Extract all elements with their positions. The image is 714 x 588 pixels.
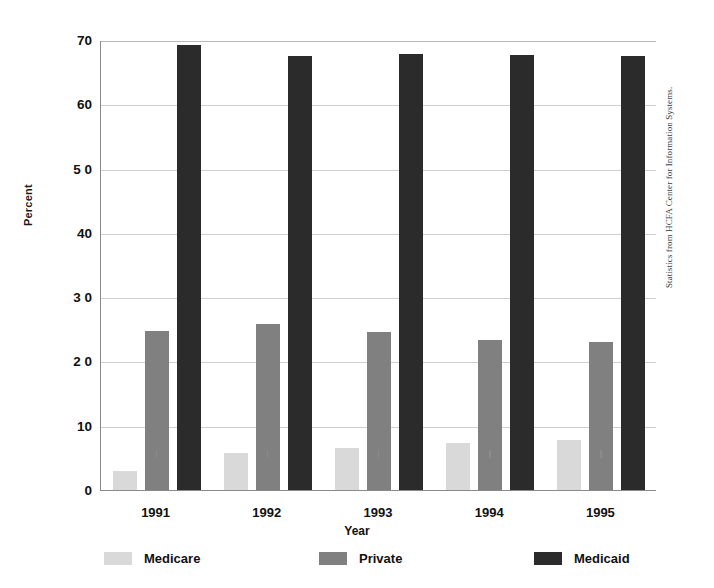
y-axis-tick-label: 3 0 xyxy=(48,291,92,305)
bar-medicare-1994 xyxy=(446,443,470,490)
bar-private-1991 xyxy=(145,331,169,490)
bar-group xyxy=(212,41,323,490)
legend-label: Medicaid xyxy=(574,551,630,566)
x-axis-tick-label-1995: 1995 xyxy=(560,505,640,520)
bar-group xyxy=(546,41,657,490)
x-axis-tick-mark xyxy=(267,450,268,458)
bar-chart-figure: Percent 0102 03 0405 06070 1991199219931… xyxy=(0,0,714,588)
bar-group xyxy=(435,41,546,490)
y-axis-tick-label: 10 xyxy=(48,420,92,434)
bar-group xyxy=(323,41,434,490)
legend-item-private[interactable]: Private xyxy=(319,548,402,568)
chart-legend: MedicarePrivateMedicaid xyxy=(104,548,664,572)
y-axis-tick-label: 70 xyxy=(48,34,92,48)
bar-medicaid-1992 xyxy=(288,56,312,490)
x-axis-tick-label-1992: 1992 xyxy=(227,505,307,520)
x-axis-tick-label-1994: 1994 xyxy=(449,505,529,520)
y-axis-tick-label: 5 0 xyxy=(48,163,92,177)
bar-private-1992 xyxy=(256,324,280,490)
y-axis-tick-label: 0 xyxy=(48,484,92,498)
x-axis-tick-label-1991: 1991 xyxy=(116,505,196,520)
legend-swatch-icon-private xyxy=(319,552,347,565)
y-axis-title: Percent xyxy=(22,136,34,226)
legend-swatch-icon-medicaid xyxy=(534,552,562,565)
bar-medicaid-1994 xyxy=(510,55,534,490)
bar-medicare-1993 xyxy=(335,448,359,490)
bar-private-1994 xyxy=(478,340,502,490)
bar-group xyxy=(101,41,212,490)
y-axis-tick-label: 2 0 xyxy=(48,355,92,369)
legend-item-medicaid[interactable]: Medicaid xyxy=(534,548,630,568)
x-axis-tick-mark xyxy=(156,450,157,458)
x-axis-title: Year xyxy=(0,524,714,538)
bar-medicaid-1991 xyxy=(177,45,201,490)
bar-medicare-1992 xyxy=(224,453,248,490)
x-axis-tick-mark xyxy=(489,450,490,458)
bar-medicare-1995 xyxy=(557,440,581,490)
y-axis-tick-labels: 0102 03 0405 06070 xyxy=(44,0,92,588)
legend-label: Medicare xyxy=(144,551,200,566)
plot-area xyxy=(100,41,656,491)
legend-label: Private xyxy=(359,551,402,566)
bar-medicaid-1995 xyxy=(621,56,645,490)
bar-private-1995 xyxy=(589,342,613,490)
legend-item-medicare[interactable]: Medicare xyxy=(104,548,200,568)
x-axis-tick-label-1993: 1993 xyxy=(338,505,418,520)
y-axis-tick-label: 40 xyxy=(48,227,92,241)
x-axis-tick-mark xyxy=(600,450,601,458)
source-credit: Statistics from HCFA Center for Informat… xyxy=(664,87,674,288)
x-axis-tick-mark xyxy=(378,450,379,458)
legend-swatch-icon-medicare xyxy=(104,552,132,565)
bar-private-1993 xyxy=(367,332,391,490)
y-axis-tick-label: 60 xyxy=(48,98,92,112)
bar-medicare-1991 xyxy=(113,471,137,490)
bar-medicaid-1993 xyxy=(399,54,423,490)
